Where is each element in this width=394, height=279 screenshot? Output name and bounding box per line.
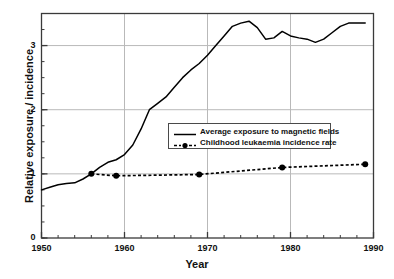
chart-figure: Relative exposure / incidence Year 0123 … (0, 0, 394, 279)
y-axis-label: Relative exposure / incidence (23, 41, 35, 211)
chart-legend: Average exposure to magnetic fields Chil… (168, 123, 331, 149)
legend-item-leukaemia: Childhood leukaemia incidence rate (172, 137, 327, 148)
y-tick-label: 1 (16, 168, 36, 178)
dashed-marker-key (172, 137, 198, 148)
y-tick-label: 2 (16, 104, 36, 114)
y-tick-label: 0 (16, 232, 36, 242)
x-tick-label: 1980 (271, 243, 311, 253)
legend-label-leukaemia: Childhood leukaemia incidence rate (200, 137, 336, 148)
legend-item-exposure: Average exposure to magnetic fields (172, 126, 327, 137)
x-tick-label: 1990 (354, 243, 394, 253)
x-tick-label: 1960 (105, 243, 145, 253)
x-tick-label: 1970 (188, 243, 228, 253)
x-axis-label: Year (0, 258, 394, 270)
legend-label-exposure: Average exposure to magnetic fields (200, 126, 339, 137)
series-line-exposure (42, 21, 366, 190)
y-tick-label: 3 (16, 40, 36, 50)
x-tick-label: 1950 (22, 243, 62, 253)
solid-line-key (172, 126, 198, 137)
